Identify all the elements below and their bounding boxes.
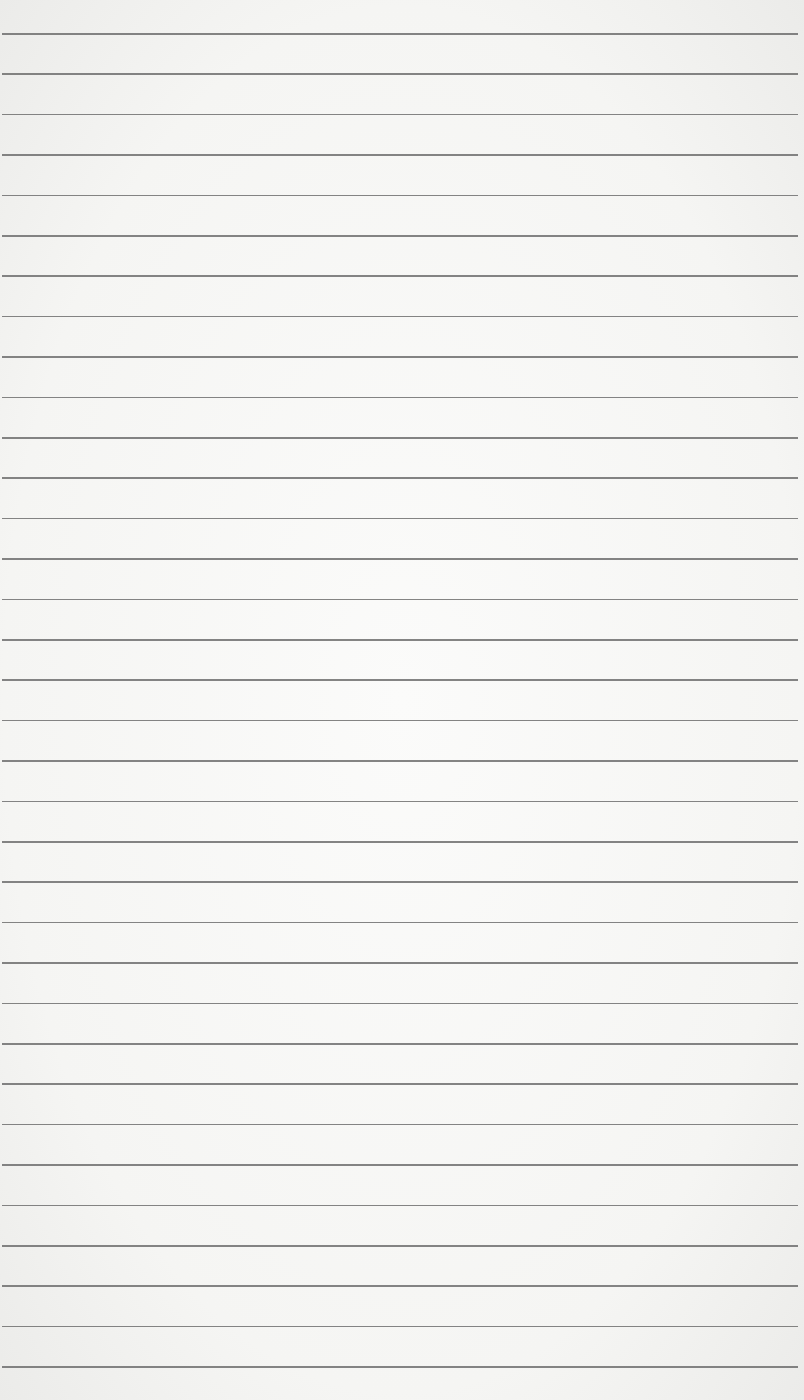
ruled-line [2, 235, 798, 237]
ruled-line [2, 599, 798, 601]
lined-paper-sheet [0, 0, 804, 1400]
ruled-line [2, 518, 798, 520]
ruled-line [2, 195, 798, 197]
ruled-line [2, 1164, 798, 1166]
ruled-line [2, 73, 798, 75]
ruled-line [2, 33, 798, 35]
ruled-line [2, 1003, 798, 1005]
ruled-line [2, 1245, 798, 1247]
ruled-line [2, 760, 798, 762]
ruled-line [2, 679, 798, 681]
ruled-line [2, 397, 798, 399]
ruled-line [2, 275, 798, 277]
ruled-line [2, 356, 798, 358]
ruled-line [2, 1326, 798, 1328]
ruled-line [2, 1124, 798, 1126]
ruled-line [2, 1285, 798, 1287]
ruled-line [2, 1366, 798, 1368]
ruled-line [2, 477, 798, 479]
ruled-line [2, 114, 798, 116]
ruled-line [2, 962, 798, 964]
ruled-line [2, 437, 798, 439]
ruled-line [2, 1083, 798, 1085]
ruled-line [2, 801, 798, 803]
ruled-line [2, 558, 798, 560]
ruled-line [2, 316, 798, 318]
ruled-line [2, 154, 798, 156]
ruled-line [2, 1205, 798, 1207]
ruled-line [2, 639, 798, 641]
ruled-line [2, 881, 798, 883]
ruled-line [2, 841, 798, 843]
ruled-line [2, 720, 798, 722]
ruled-line [2, 922, 798, 924]
ruled-line [2, 1043, 798, 1045]
